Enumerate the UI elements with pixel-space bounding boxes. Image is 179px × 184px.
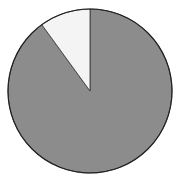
- pie-chart: [0, 0, 179, 184]
- pie-slices: [8, 9, 172, 173]
